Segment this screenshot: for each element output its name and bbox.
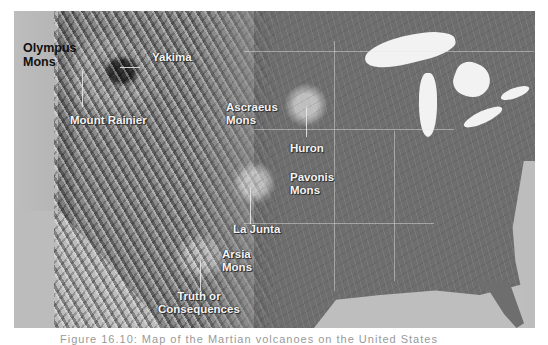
label-pavonis-mons: Pavonis Mons	[290, 171, 334, 197]
leader-line-mount-rainier	[82, 71, 83, 107]
label-mount-rainier: Mount Rainier	[70, 114, 147, 127]
label-line: Mons	[226, 114, 278, 127]
state-border	[254, 129, 454, 130]
us-relief-map: Olympus Mons Yakima Mount Rainier Ascrae…	[14, 11, 535, 328]
label-line: Consequences	[158, 303, 240, 316]
label-line: Arsia	[222, 248, 252, 261]
label-truth-or-consequences: Truth or Consequences	[158, 290, 240, 316]
label-yakima: Yakima	[152, 51, 192, 64]
label-huron: Huron	[290, 142, 324, 155]
leader-line-la-junta	[250, 188, 251, 224]
label-line: Mons	[222, 261, 252, 274]
label-la-junta: La Junta	[233, 223, 280, 236]
lake-michigan	[419, 73, 437, 137]
label-line: Ascraeus	[226, 101, 278, 114]
state-border	[334, 41, 335, 291]
leader-line-huron	[306, 107, 307, 137]
figure-caption: Figure 16.10: Map of the Martian volcano…	[60, 333, 438, 345]
label-line: Truth or	[158, 290, 240, 303]
state-border	[394, 131, 395, 281]
label-line: Mons	[23, 55, 77, 69]
label-line: Pavonis	[290, 171, 334, 184]
label-line: Olympus	[23, 41, 77, 55]
leader-line-yakima	[120, 67, 140, 68]
label-line: Mons	[290, 184, 334, 197]
state-border	[244, 51, 534, 52]
label-olympus-mons: Olympus Mons	[23, 41, 77, 69]
leader-line-truth-or-consequences	[200, 261, 201, 291]
label-ascraeus-mons: Ascraeus Mons	[226, 101, 278, 127]
label-arsia-mons: Arsia Mons	[222, 248, 252, 274]
